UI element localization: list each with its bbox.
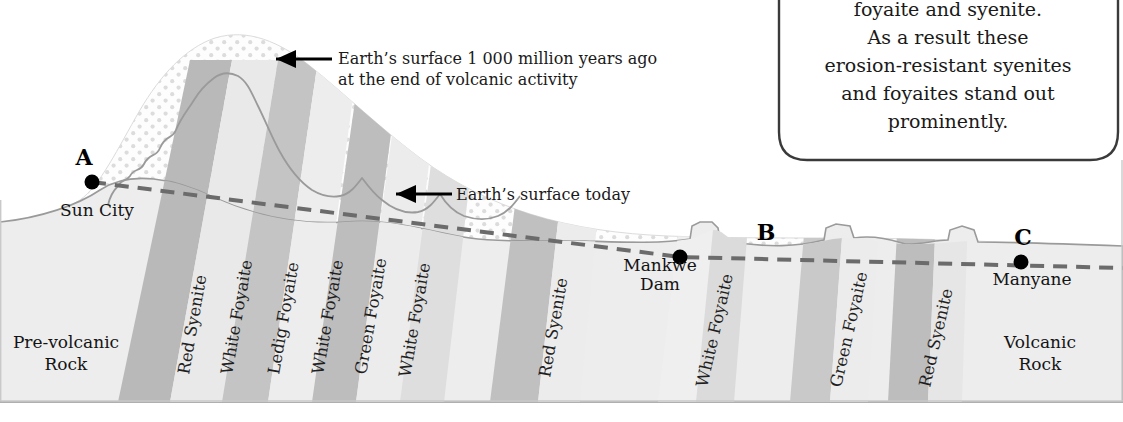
region-pre-volcanic-line2: Rock xyxy=(45,354,89,374)
point-letter-b: B xyxy=(757,219,776,245)
place-label-mankwe-dam-line2: Dam xyxy=(640,274,680,294)
callout-line-4: and foyaites stand out xyxy=(841,82,1055,104)
callout-box-border xyxy=(779,0,1118,160)
annotation-ancient-line2: at the end of volcanic activity xyxy=(338,70,578,89)
point-marker-a[interactable]: A xyxy=(74,144,99,190)
figure-stage: A B C Sun City Mankwe Dam Manyane Pre-vo… xyxy=(0,0,1123,422)
annotation-ancient-surface: Earth’s surface 1 000 million years ago … xyxy=(276,49,657,89)
callout-line-2: As a result these xyxy=(866,26,1028,48)
region-pre-volcanic-line1: Pre-volcanic xyxy=(13,332,119,352)
marker-dot-a xyxy=(85,175,100,190)
marker-dot-c xyxy=(1014,255,1029,270)
callout-box: foyaite and syenite. As a result these e… xyxy=(779,0,1118,160)
place-label-sun-city: Sun City xyxy=(60,200,134,220)
point-letter-c: C xyxy=(1014,224,1032,250)
region-volcanic-line2: Rock xyxy=(1019,354,1063,374)
point-letter-a: A xyxy=(74,144,93,170)
geological-cross-section-diagram: A B C Sun City Mankwe Dam Manyane Pre-vo… xyxy=(0,0,1123,422)
place-label-mankwe-dam-line1: Mankwe xyxy=(623,255,696,275)
place-label-manyane: Manyane xyxy=(992,269,1071,289)
annotation-present-line1: Earth’s surface today xyxy=(456,185,630,204)
callout-line-1: foyaite and syenite. xyxy=(854,0,1042,20)
annotation-ancient-line1: Earth’s surface 1 000 million years ago xyxy=(338,49,657,68)
callout-line-3: erosion-resistant syenites xyxy=(824,54,1071,76)
callout-line-5: prominently. xyxy=(888,110,1008,132)
region-volcanic-line1: Volcanic xyxy=(1003,332,1076,352)
